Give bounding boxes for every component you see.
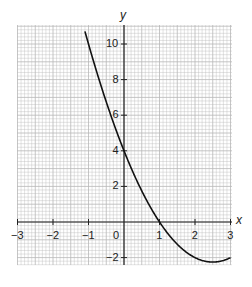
x-tick-label: 3 <box>227 230 233 241</box>
x-axis-label: x <box>236 215 242 226</box>
curve-line <box>85 31 231 262</box>
x-tick-label: −1 <box>82 230 95 241</box>
x-tick-label: 0 <box>113 230 119 241</box>
y-tick-label: 2 <box>113 180 119 191</box>
y-tick-label: −2 <box>106 252 119 263</box>
x-tick-label: 2 <box>192 230 198 241</box>
chart-plot <box>0 0 252 287</box>
y-tick-label: 6 <box>113 109 119 120</box>
x-tick-label: 1 <box>156 230 162 241</box>
y-tick-label: 4 <box>113 145 119 156</box>
y-axis-label: y <box>120 10 126 21</box>
x-tick-label: −3 <box>11 230 24 241</box>
y-tick-label: 8 <box>113 74 119 85</box>
x-tick-label: −2 <box>47 230 60 241</box>
y-tick-label: 10 <box>106 38 118 49</box>
